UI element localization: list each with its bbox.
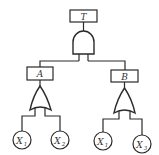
- connector: [45, 108, 60, 131]
- event-label: X: [15, 136, 23, 146]
- or-gate-icon: [30, 86, 51, 110]
- fault-tree-diagram: T A B X 1 X 2 X 1 X 3: [0, 0, 159, 155]
- event-label: X: [96, 137, 104, 147]
- connector: [103, 111, 119, 132]
- event-subscript: 1: [24, 141, 28, 147]
- intermediate-event-A: A: [27, 67, 53, 80]
- intermediate-event-B: B: [111, 70, 138, 82]
- and-gate-icon: [73, 31, 94, 54]
- basic-event-X2: X 2: [51, 131, 69, 149]
- connector: [22, 108, 35, 131]
- or-gate-icon: [114, 88, 135, 113]
- basic-event-X1-left: X 1: [13, 131, 31, 149]
- connector-to-B: [88, 61, 125, 70]
- event-label: X: [53, 136, 61, 146]
- connector: [130, 111, 142, 135]
- basic-event-X1-right: X 1: [94, 132, 112, 150]
- connector-to-A: [40, 61, 79, 67]
- event-label: B: [120, 72, 128, 82]
- top-event-T: T: [70, 10, 97, 22]
- event-label: T: [80, 12, 87, 22]
- event-label: A: [36, 69, 44, 79]
- event-label: X: [135, 140, 143, 150]
- basic-event-X3: X 3: [133, 135, 151, 153]
- event-subscript: 3: [144, 145, 148, 151]
- event-subscript: 2: [61, 141, 66, 147]
- event-subscript: 1: [105, 142, 109, 148]
